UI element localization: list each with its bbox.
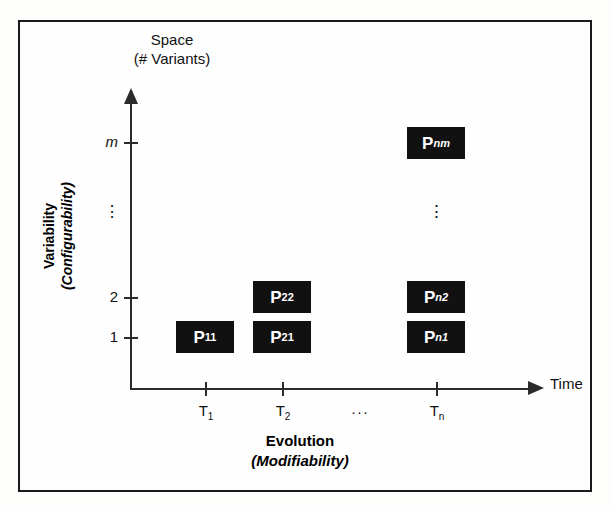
product-box-pn1-sub: n1 xyxy=(435,331,448,343)
x-tick-label-t2: T2 xyxy=(260,403,306,425)
product-box-p11-base: P xyxy=(194,329,205,346)
figure-border-frame: Space (# Variants) Variability (Configur… xyxy=(18,20,592,492)
x-tick-label-tn-base: T xyxy=(430,402,439,419)
x-axis-arrow-label-time: Time xyxy=(550,375,583,392)
y-tick-label-2: 2 xyxy=(82,290,118,304)
y-tick-label-m: m xyxy=(82,135,118,149)
x-tick-label-tn-sub: n xyxy=(439,411,445,422)
x-axis-arrowhead-icon xyxy=(528,381,544,395)
product-box-pn1-base: P xyxy=(424,329,435,346)
product-box-p21: P21 xyxy=(253,321,311,353)
x-tick-mark-t1 xyxy=(205,382,207,396)
product-box-pn1: Pn1 xyxy=(407,321,465,353)
product-box-pnm-base: P xyxy=(422,135,433,152)
column-ellipsis-pn: ⋮ xyxy=(426,206,446,217)
y-tick-label-ellipsis: ⋮ xyxy=(102,207,122,217)
product-box-pn2-base: P xyxy=(424,289,435,306)
product-box-pn2: Pn2 xyxy=(407,281,465,313)
product-box-p22-base: P xyxy=(270,289,281,306)
product-box-p21-sub: 21 xyxy=(282,331,294,343)
y-tick-mark-1 xyxy=(124,337,138,339)
x-tick-label-t1-sub: 1 xyxy=(208,411,214,422)
product-box-p11: P11 xyxy=(176,321,234,353)
figure-root: Space (# Variants) Variability (Configur… xyxy=(0,0,610,511)
product-box-p22: P22 xyxy=(253,281,311,313)
y-tick-mark-m xyxy=(124,142,138,144)
x-tick-label-t1-base: T xyxy=(199,402,208,419)
x-axis-ellipsis: ··· xyxy=(340,403,380,420)
x-tick-mark-t2 xyxy=(282,382,284,396)
x-tick-label-t1: T1 xyxy=(183,403,229,425)
x-tick-label-t2-sub: 2 xyxy=(285,411,291,422)
x-tick-label-tn: Tn xyxy=(414,403,460,425)
y-tick-label-1: 1 xyxy=(82,330,118,344)
x-tick-mark-tn xyxy=(436,382,438,396)
product-box-pnm-sub: nm xyxy=(433,137,450,149)
product-box-p22-sub: 22 xyxy=(282,291,294,303)
y-tick-mark-2 xyxy=(124,297,138,299)
product-box-pn2-sub: n2 xyxy=(435,291,448,303)
x-axis-line xyxy=(130,388,534,390)
product-box-pnm: Pnm xyxy=(407,127,465,159)
x-tick-label-t2-base: T xyxy=(276,402,285,419)
y-axis-arrowhead-icon xyxy=(124,88,138,104)
product-box-p11-sub: 11 xyxy=(205,331,217,343)
y-axis-line xyxy=(130,102,132,390)
product-box-p21-base: P xyxy=(270,329,281,346)
plot-area: m ⋮ 2 1 T1 T2 ··· Tn Time P11 xyxy=(20,22,594,494)
